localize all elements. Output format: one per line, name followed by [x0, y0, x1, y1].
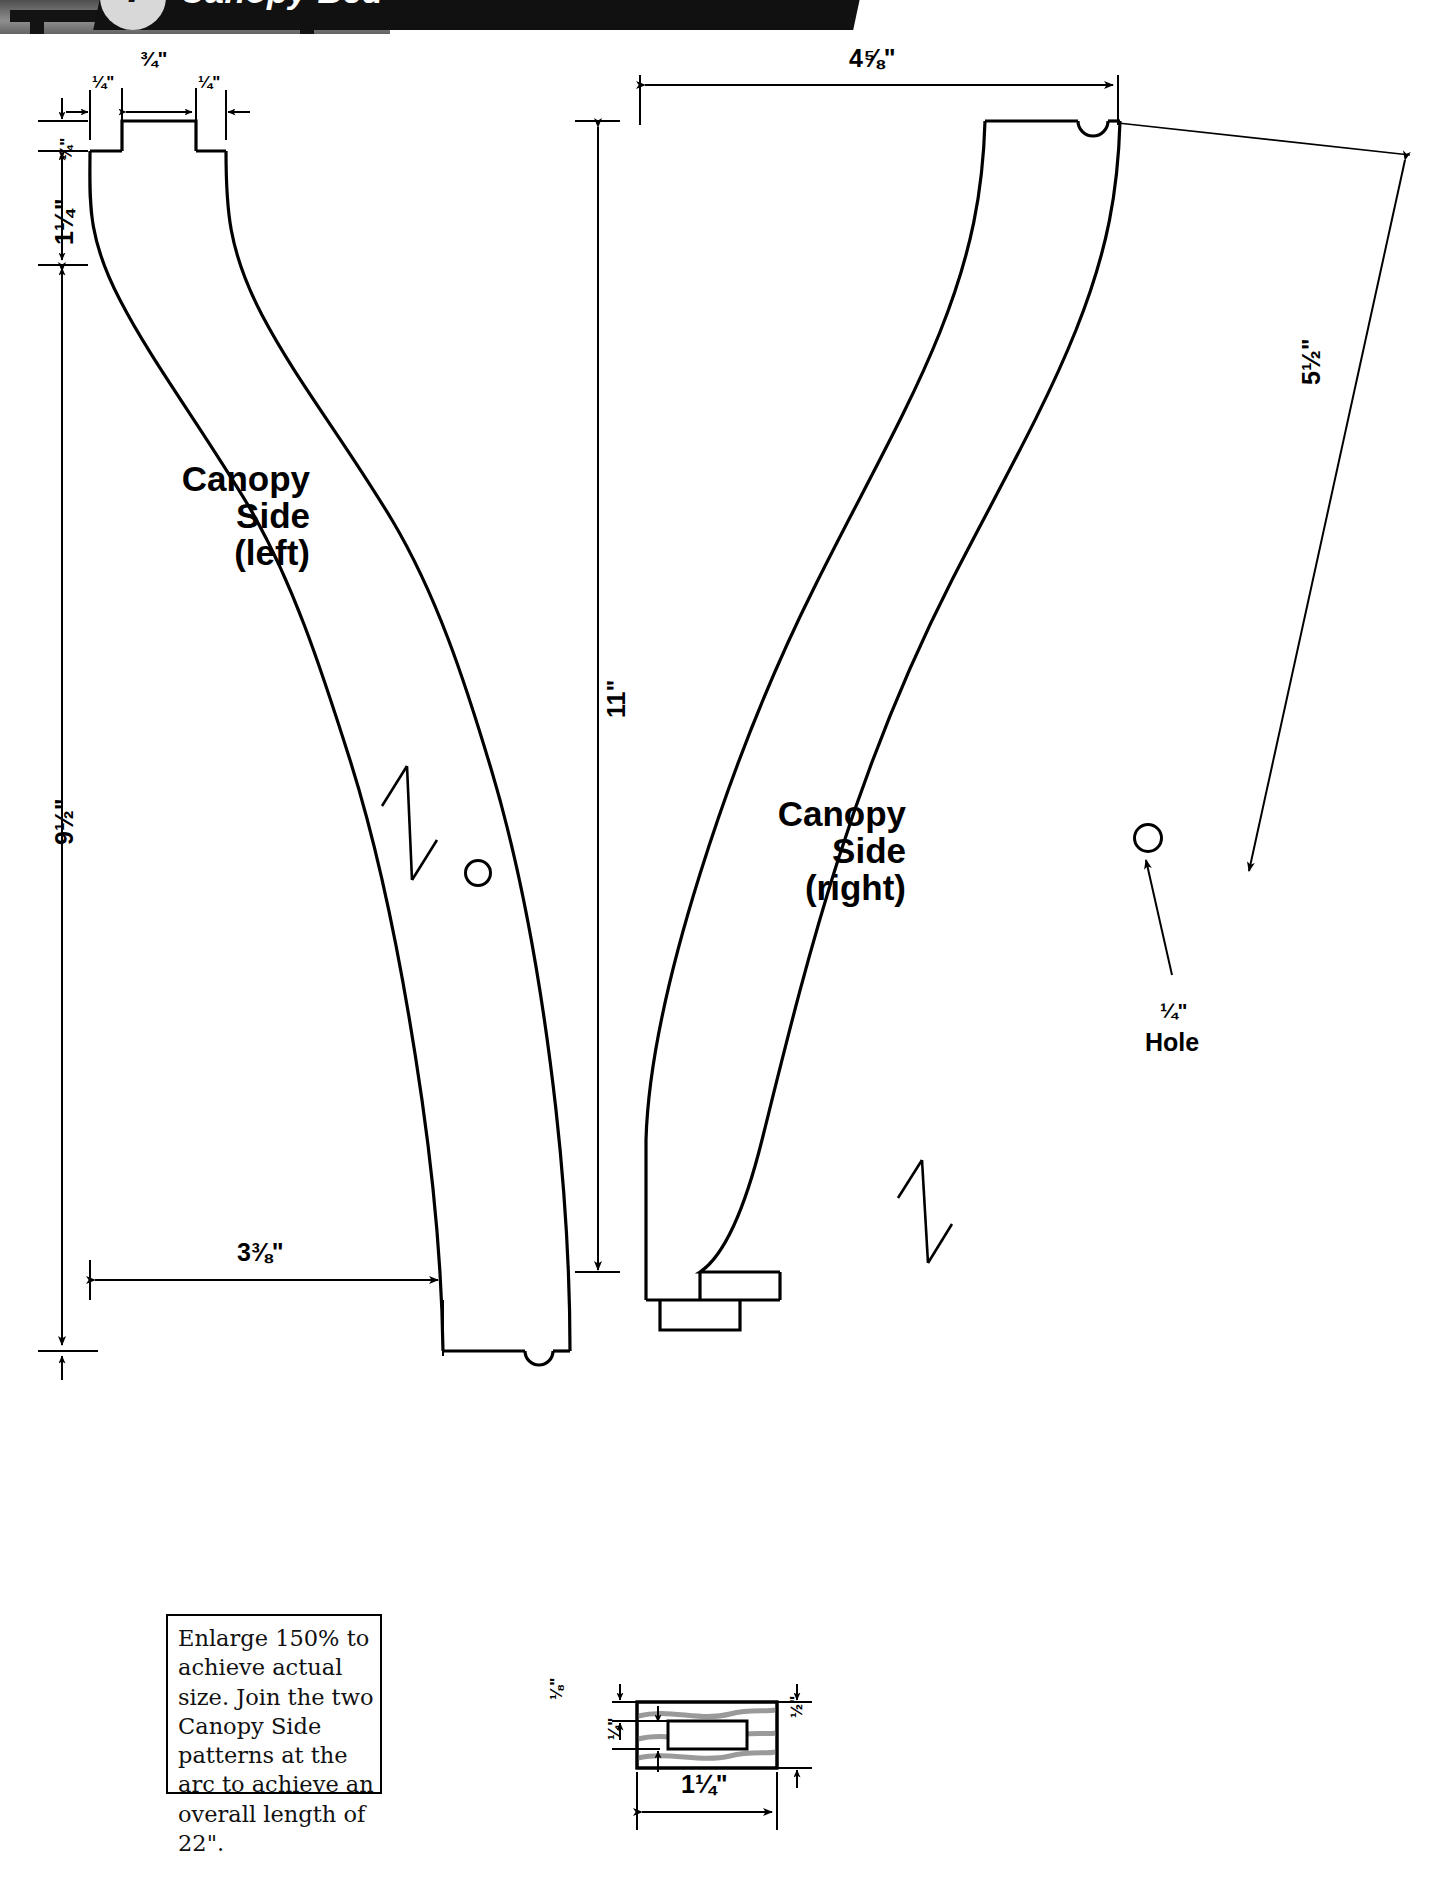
dimension-label-tenon-width: ¾": [140, 48, 167, 69]
canopy-side-right-outline: [646, 121, 1120, 1330]
hole-circle: [466, 861, 491, 886]
dimension-label-tenon-shoulder-right: ¼": [198, 74, 220, 91]
hole-circle: [1135, 825, 1162, 852]
dimension-top-right-4-5-8: [640, 75, 1118, 125]
dimension-group-top-left: [66, 88, 250, 140]
dimension-group-left-vertical: [38, 98, 98, 1380]
dimension-label-tenon-shoulder-left: ¼": [92, 74, 114, 91]
part-label-left-line1: Canopy: [110, 460, 310, 497]
grain-direction-arrow: [898, 1160, 952, 1263]
hole-text-label: Hole: [1145, 1030, 1199, 1055]
canopy-side-left-outline: [90, 121, 570, 1365]
hole-size-label: ¼": [1160, 1000, 1187, 1021]
grain-direction-arrow: [382, 766, 437, 880]
dimension-label-head-height: 1¼": [52, 198, 77, 245]
part-label-right-line2: Side: [706, 832, 906, 869]
instruction-box: Enlarge 150% to achieve actual size. Joi…: [166, 1614, 382, 1794]
section-groove-label: ¼": [606, 1718, 623, 1740]
leader-arrow: [1146, 860, 1172, 975]
part-label-right: Canopy Side (right): [706, 795, 906, 906]
dimension-bottom-3-3-8: [90, 1260, 443, 1356]
part-label-left: Canopy Side (left): [110, 460, 310, 571]
dimension-label-overall-height: 9½": [52, 798, 77, 845]
dimension-label-middle-height: 11": [604, 680, 629, 718]
part-label-left-line3: (left): [110, 534, 310, 571]
section-height-label: ½": [788, 1696, 805, 1718]
dimension-diagonal-5-1-2: [1118, 123, 1410, 871]
section-width-label: 1¼": [681, 1772, 728, 1797]
part-label-left-line2: Side: [110, 497, 310, 534]
section-thickness-label: ⅛": [548, 1678, 565, 1700]
dimension-label-bottom-width: 3⅜": [237, 1240, 284, 1265]
dimension-label-right-top-width: 4⅝": [849, 46, 896, 71]
dimension-label-tenon-height: ¼": [58, 138, 75, 160]
part-label-right-line1: Canopy: [706, 795, 906, 832]
instruction-text: Enlarge 150% to achieve actual size. Joi…: [178, 1624, 374, 1858]
part-label-right-line3: (right): [706, 869, 906, 906]
dimension-label-diagonal: 5½": [1299, 338, 1324, 385]
